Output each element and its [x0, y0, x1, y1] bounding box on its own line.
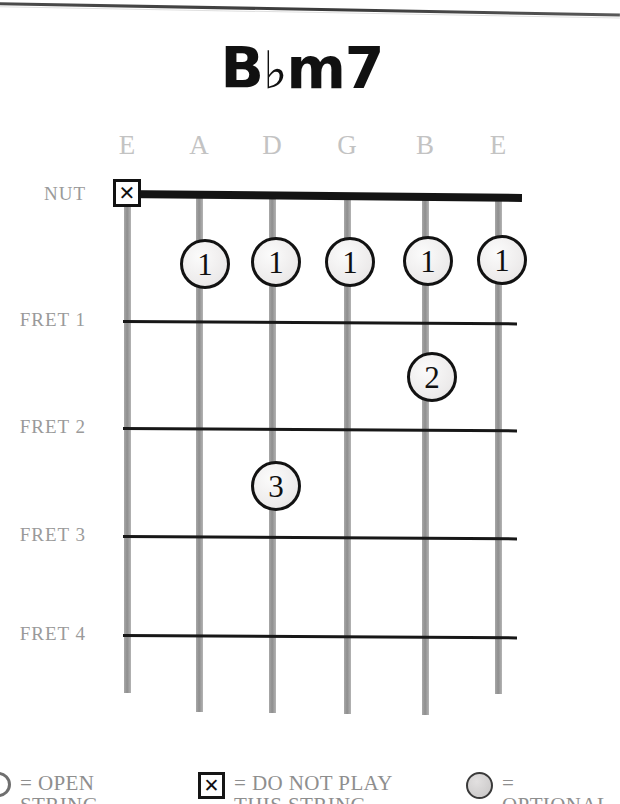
finger-high-e-fret1: 1	[477, 235, 527, 285]
nut-label: NUT	[0, 184, 86, 203]
fret-label-1: FRET 1	[0, 310, 86, 329]
string-label-4: B	[405, 132, 445, 159]
fret-line-1	[123, 320, 517, 325]
legend-do-not-play: ✕= DO NOT PLAY THIS STRING	[198, 772, 393, 804]
chord-diagram: EADGBENUTFRET 1FRET 2FRET 3FRET 4✕111112…	[0, 0, 604, 730]
finger-d-fret1: 1	[251, 237, 301, 287]
guitar-string-0	[124, 195, 131, 693]
fret-line-2	[123, 427, 517, 432]
legend-open-string-text: = OPEN STRING	[20, 772, 98, 804]
string-label-3: G	[327, 132, 367, 159]
finger-d-fret3: 3	[251, 461, 301, 511]
fret-label-3: FRET 3	[0, 525, 86, 544]
do-not-play-icon: ✕	[198, 772, 225, 799]
string-label-2: D	[252, 132, 292, 159]
fret-line-3	[123, 535, 517, 540]
legend-optional-text: = OPTIONAL	[502, 772, 604, 804]
string-label-5: E	[478, 132, 518, 159]
legend-open-string: = OPEN STRING	[0, 772, 98, 804]
finger-g-fret1: 1	[325, 237, 375, 287]
fret-line-4	[123, 634, 517, 639]
fret-label-2: FRET 2	[0, 417, 86, 436]
finger-b-fret2: 2	[407, 352, 457, 402]
finger-a-fret1: 1	[180, 239, 230, 289]
finger-b-fret1: 1	[403, 236, 453, 286]
nut-bar	[118, 190, 522, 202]
legend: = OPEN STRING✕= DO NOT PLAY THIS STRING=…	[0, 758, 604, 804]
legend-optional: = OPTIONAL	[466, 772, 604, 804]
legend-do-not-play-text: = DO NOT PLAY THIS STRING	[234, 772, 393, 804]
string-label-0: E	[107, 132, 147, 159]
string-label-1: A	[179, 132, 219, 159]
open-string-icon	[0, 772, 11, 797]
fret-label-4: FRET 4	[0, 624, 86, 643]
optional-note-icon	[466, 772, 493, 799]
do-not-play-icon: ✕	[113, 179, 141, 207]
